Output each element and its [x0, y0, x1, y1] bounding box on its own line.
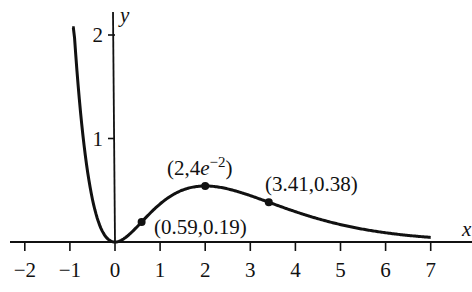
x-tick-label: 1 — [155, 258, 166, 282]
x-tick-label: 2 — [200, 258, 211, 282]
y-axis-label: y — [118, 3, 130, 27]
marked-point — [138, 218, 146, 226]
function-curve — [72, 28, 431, 242]
x-tick-label: −1 — [59, 258, 81, 282]
function-plot: −2−101234567 12 x y (0.59,0.19) (2,4e−2)… — [0, 0, 472, 292]
x-tick-label: 7 — [425, 258, 436, 282]
x-tick-label: 5 — [335, 258, 346, 282]
point-label-inflection-1: (0.59,0.19) — [154, 215, 247, 239]
y-axis — [113, 12, 115, 243]
y-tick-label: 1 — [93, 127, 104, 151]
x-tick-label: 6 — [380, 258, 391, 282]
x-ticks: −2−101234567 — [14, 242, 436, 282]
point-label-maximum: (2,4e−2) — [167, 154, 233, 180]
x-axis-label: x — [461, 217, 472, 241]
x-tick-label: 0 — [110, 258, 121, 282]
y-ticks: 12 — [93, 23, 116, 151]
marked-point — [201, 182, 209, 190]
x-tick-label: −2 — [14, 258, 36, 282]
point-label-inflection-2: (3.41,0.38) — [265, 172, 358, 196]
x-tick-label: 3 — [245, 258, 256, 282]
y-tick-label: 2 — [93, 23, 104, 47]
x-tick-label: 4 — [290, 258, 301, 282]
marked-point — [265, 198, 273, 206]
